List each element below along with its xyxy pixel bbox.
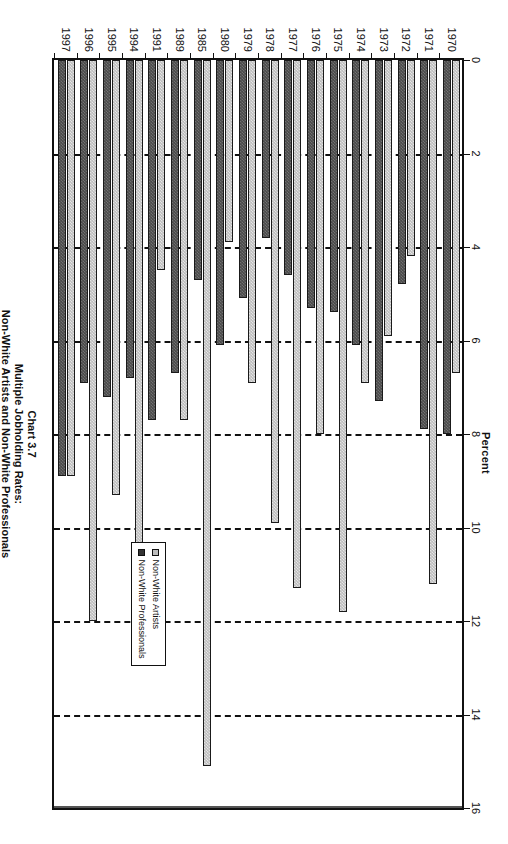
bar-professionals: [398, 60, 406, 284]
bar-artists: [225, 60, 233, 242]
y-axis-tick-mark: [235, 53, 236, 60]
bar-professionals: [148, 60, 156, 420]
y-axis-category-label: 1976: [310, 2, 322, 52]
x-axis-tick-mark: [463, 434, 470, 435]
bar-row: [303, 60, 326, 808]
bar-row: [439, 60, 462, 808]
chart-page: Percent 0246810121416 Non-White ArtistsN…: [0, 0, 508, 844]
x-axis-tick-mark: [463, 808, 470, 809]
x-axis-tick-label: 10: [470, 521, 482, 533]
bar-professionals: [284, 60, 292, 275]
bar-artists: [90, 60, 98, 621]
chart-title-line: Non-White Artists and Non-White Professi…: [0, 58, 12, 810]
y-axis-tick-mark: [145, 53, 146, 60]
bar-row: [167, 60, 190, 808]
y-axis-tick-mark: [122, 53, 123, 60]
y-axis-tick-mark: [281, 53, 282, 60]
y-axis-tick-mark: [417, 53, 418, 60]
y-axis-category-label: 1972: [400, 2, 412, 52]
bar-professionals: [216, 60, 224, 345]
y-axis-tick-mark: [213, 53, 214, 60]
bar-artists: [67, 60, 75, 476]
y-axis-tick-mark: [326, 53, 327, 60]
bar-professionals: [352, 60, 360, 345]
x-axis-tick-label: 16: [470, 802, 482, 814]
plot-area: Non-White ArtistsNon-White Professionals: [52, 58, 464, 810]
bar-professionals: [307, 60, 315, 308]
y-axis-tick-mark: [439, 53, 440, 60]
chart-title-line: Chart 3.7: [25, 58, 38, 810]
bar-professionals: [239, 60, 247, 298]
bar-artists: [384, 60, 392, 336]
bar-artists: [203, 60, 211, 766]
y-axis-tick-mark: [167, 53, 168, 60]
bar-row: [122, 60, 145, 808]
x-axis-tick-label: 14: [470, 708, 482, 720]
x-axis-tick-label: 4: [470, 244, 482, 250]
y-axis-tick-mark: [77, 53, 78, 60]
bar-row: [371, 60, 394, 808]
bar-row: [145, 60, 168, 808]
bar-professionals: [420, 60, 428, 429]
bar-artists: [407, 60, 415, 256]
bar-artists: [361, 60, 369, 383]
bar-artists: [271, 60, 279, 523]
bar-row: [77, 60, 100, 808]
bar-professionals: [171, 60, 179, 373]
y-axis-category-label: 1978: [264, 2, 276, 52]
bar-professionals: [58, 60, 66, 476]
legend-item: Non-White Professionals: [136, 549, 147, 659]
legend-label: Non-White Professionals: [136, 560, 147, 659]
bar-row: [349, 60, 372, 808]
y-axis-category-label: 1989: [174, 2, 186, 52]
y-axis-category-label: 1974: [355, 2, 367, 52]
y-axis-tick-mark: [349, 53, 350, 60]
bar-professionals: [443, 60, 451, 434]
y-axis-category-label: 1979: [242, 2, 254, 52]
y-axis-tick-mark: [190, 53, 191, 60]
x-axis-tick-label: 0: [470, 57, 482, 63]
bar-professionals: [81, 60, 89, 383]
bar-row: [235, 60, 258, 808]
bar-professionals: [375, 60, 383, 401]
chart-figure: Percent 0246810121416 Non-White ArtistsN…: [0, 0, 508, 844]
bar-artists: [452, 60, 460, 373]
bar-professionals: [126, 60, 134, 378]
y-axis-tick-mark: [258, 53, 259, 60]
bar-row: [100, 60, 123, 808]
bar-row: [258, 60, 281, 808]
x-axis-tick-label: 12: [470, 615, 482, 627]
legend-swatch-profs: [138, 549, 145, 556]
bar-row: [417, 60, 440, 808]
bar-artists: [429, 60, 437, 584]
legend-item: Non-White Artists: [150, 549, 161, 659]
x-axis-tick-label: 8: [470, 431, 482, 437]
y-axis-category-label: 1996: [83, 2, 95, 52]
bar-artists: [112, 60, 120, 495]
y-axis-tick-mark: [371, 53, 372, 60]
y-axis-tick-mark: [54, 53, 55, 60]
bar-professionals: [262, 60, 270, 238]
rotated-figure-wrapper: Percent 0246810121416 Non-White ArtistsN…: [0, 0, 508, 844]
bar-row: [54, 60, 77, 808]
y-axis-category-label: 1970: [446, 2, 458, 52]
bar-artists: [180, 60, 188, 420]
bar-artists: [157, 60, 165, 270]
bar-row: [213, 60, 236, 808]
bar-row: [281, 60, 304, 808]
chart-title: Chart 3.7Multiple Jobholding Rates:Non-W…: [0, 58, 38, 810]
y-axis-category-label: 1975: [332, 2, 344, 52]
legend-swatch-artists: [152, 549, 159, 556]
x-axis-tick-mark: [463, 247, 470, 248]
y-axis-category-label: 1971: [423, 2, 435, 52]
x-axis-tick-mark: [463, 528, 470, 529]
bar-artists: [316, 60, 324, 434]
bar-rows: [54, 60, 462, 808]
y-axis-category-label: 1977: [287, 2, 299, 52]
bar-row: [394, 60, 417, 808]
y-axis-category-label: 1991: [151, 2, 163, 52]
x-axis-tick-mark: [463, 154, 470, 155]
bar-row: [326, 60, 349, 808]
bar-professionals: [103, 60, 111, 397]
y-axis-tick-mark: [303, 53, 304, 60]
